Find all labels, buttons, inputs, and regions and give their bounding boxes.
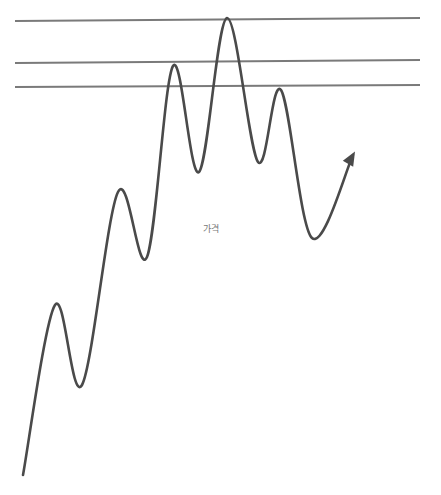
price-chart: [0, 0, 441, 495]
price-label: 가격: [203, 222, 219, 235]
horizontal-line-1: [15, 18, 420, 21]
horizontal-line-3: [15, 85, 420, 87]
